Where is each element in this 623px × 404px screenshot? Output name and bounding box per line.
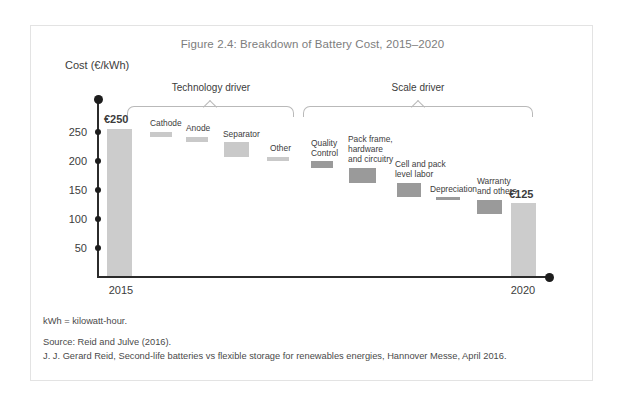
step-label-cell-and-pack-level-labor: Cell and pack level labor <box>395 159 446 179</box>
y-tick-label-200: 200 <box>47 155 87 167</box>
x-axis-cap-dot <box>545 273 554 282</box>
bar-separator <box>224 142 249 157</box>
bar-quality-control <box>311 161 333 168</box>
bar-anode <box>186 137 208 142</box>
y-tick-dot-100 <box>95 216 101 222</box>
footnote-kwh: kWh = kilowatt-hour. <box>43 314 588 329</box>
x-tick-label-2020: 2020 <box>493 284 553 296</box>
step-label-other: Other <box>270 143 291 153</box>
step-label-anode: Anode <box>186 123 210 133</box>
bar-cell-and-pack-level-labor <box>397 183 421 197</box>
y-axis-cap-dot <box>94 95 103 104</box>
step-label-depreciation: Depreciation <box>430 184 477 194</box>
bar-warranty-and-others <box>477 200 502 214</box>
y-tick-dot-150 <box>95 187 101 193</box>
y-tick-dot-50 <box>95 245 101 251</box>
bar-2020 <box>511 203 536 276</box>
bar-2015 <box>107 129 132 276</box>
bar-other <box>267 157 289 161</box>
y-tick-dot-200 <box>95 158 101 164</box>
y-axis-title: Cost (€/kWh) <box>65 59 129 71</box>
step-label-separator: Separator <box>223 129 260 139</box>
step-label-cathode: Cathode <box>150 118 182 128</box>
bracket-label-scale-driver: Scale driver <box>338 82 498 93</box>
footnote-source: Source: Reid and Julve (2016). <box>43 335 588 350</box>
y-tick-label-100: 100 <box>47 213 87 225</box>
bar-value-2015: €250 <box>104 113 128 125</box>
figure-frame: Figure 2.4: Breakdown of Battery Cost, 2… <box>30 25 593 381</box>
bar-pack-frame-hardware-circuitry <box>349 168 376 183</box>
footnote-citation: J. J. Gerard Reid, Second-life batteries… <box>43 349 588 364</box>
bar-value-2020: €125 <box>509 188 533 200</box>
y-tick-label-50: 50 <box>47 242 87 254</box>
step-label-quality-control: Quality Control <box>311 138 338 158</box>
step-label-pack-frame-hardware-circuitry: Pack frame, hardware and circuitry <box>348 134 393 164</box>
x-tick-label-2015: 2015 <box>91 284 151 296</box>
y-tick-dot-250 <box>95 129 101 135</box>
y-tick-label-150: 150 <box>47 184 87 196</box>
y-tick-label-250: 250 <box>47 126 87 138</box>
bar-cathode <box>150 132 172 137</box>
bracket-label-technology-driver: Technology driver <box>131 82 291 93</box>
x-axis-line <box>97 276 549 278</box>
bar-depreciation <box>436 197 460 200</box>
footnotes: kWh = kilowatt-hour. Source: Reid and Ju… <box>43 314 588 364</box>
